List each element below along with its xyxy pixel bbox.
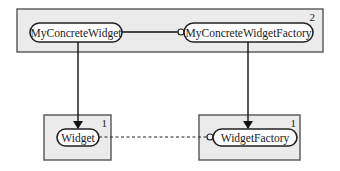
diagram-canvas: 2 1 1 MyConcreteWidget MyConcreteWidgetF… <box>0 0 340 171</box>
group-top-number: 2 <box>310 11 316 23</box>
socket-icon <box>207 134 213 140</box>
group-bottom-left-number: 1 <box>102 117 108 129</box>
component-widget-factory[interactable]: WidgetFactory <box>213 129 297 146</box>
component-my-concrete-widget[interactable]: MyConcreteWidget <box>30 23 122 42</box>
component-label: Widget <box>61 132 95 145</box>
group-bottom-right-number: 1 <box>291 117 297 129</box>
component-my-concrete-widget-factory[interactable]: MyConcreteWidgetFactory <box>184 23 313 42</box>
component-label: MyConcreteWidgetFactory <box>185 27 311 40</box>
socket-icon <box>178 29 184 35</box>
component-label: WidgetFactory <box>221 132 290 145</box>
component-widget[interactable]: Widget <box>57 129 99 146</box>
component-label: MyConcreteWidget <box>31 27 123 40</box>
